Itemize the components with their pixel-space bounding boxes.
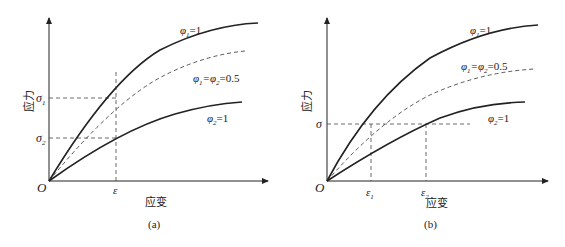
y-axis-label: 应力 — [300, 90, 313, 112]
x-axis-label: 应变 — [426, 196, 448, 209]
caption-a: (a) — [148, 218, 161, 231]
tick-epsilon1: ε1 — [366, 186, 374, 201]
curve-phi-mix — [327, 69, 535, 181]
origin-label: O — [37, 180, 47, 195]
panel-a: φ1=1 φ1=φ2=0.5 φ2=1 σ1 σ2 ε O 应力 应变 (a) — [22, 18, 268, 231]
stress-strain-diagram: φ1=1 φ1=φ2=0.5 φ2=1 σ1 σ2 ε O 应力 应变 (a) … — [0, 0, 565, 247]
curve-phi1 — [49, 23, 258, 181]
y-axis-label: 应力 — [22, 90, 35, 112]
tick-sigma1: σ1 — [36, 91, 45, 107]
x-axis-label: 应变 — [145, 195, 167, 208]
tick-sigma: σ — [316, 117, 323, 131]
label-phi-mix: φ1=φ2=0.5 — [461, 60, 508, 75]
panel-b: φ1=1 φ1=φ2=0.5 φ2=1 σ ε1 ε2 O 应力 应变 (b) — [300, 18, 548, 231]
label-phi2: φ2=1 — [207, 112, 228, 127]
label-phi-mix: φ1=φ2=0.5 — [193, 72, 240, 87]
label-phi2: φ2=1 — [488, 112, 509, 127]
tick-sigma2: σ2 — [36, 131, 46, 147]
caption-b: (b) — [424, 218, 437, 231]
origin-label: O — [315, 180, 325, 195]
tick-epsilon: ε — [113, 184, 118, 196]
